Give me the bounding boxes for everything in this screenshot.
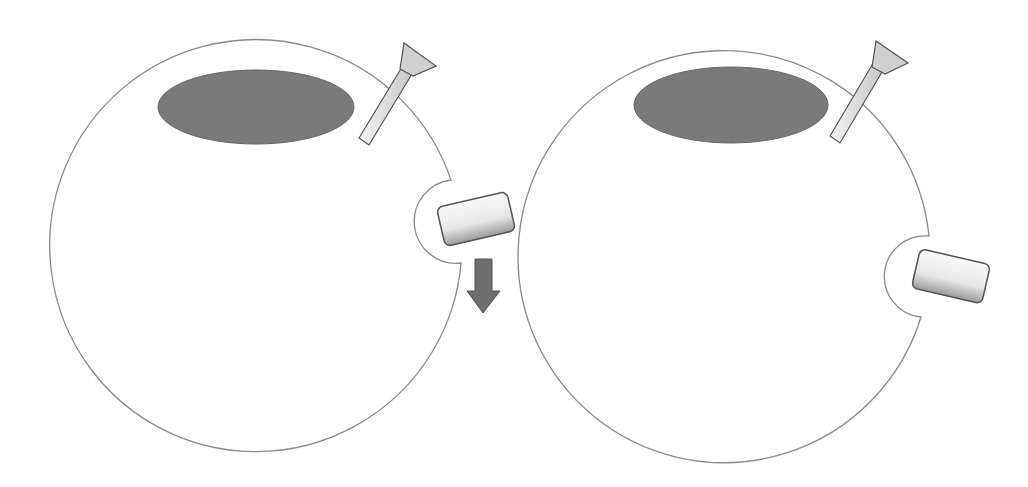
nucleus <box>634 67 828 143</box>
block <box>436 191 515 246</box>
down-arrow-icon <box>467 259 500 313</box>
block <box>911 249 990 304</box>
diagram-canvas <box>0 0 1028 487</box>
left-cell <box>50 40 516 452</box>
nucleus <box>158 70 354 144</box>
right-cell <box>518 41 991 463</box>
